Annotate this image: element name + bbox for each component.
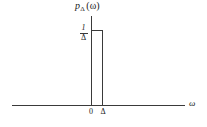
x-tick-label-zero: 0 — [86, 108, 96, 116]
function-label: pΔ(ω) — [75, 1, 100, 13]
pulse-rectangle — [91, 30, 103, 105]
x-axis-label: ω — [189, 99, 195, 108]
horizontal-axis — [12, 105, 185, 106]
function-label-argument: (ω) — [85, 0, 100, 11]
pulse-height-denominator: Δ — [78, 34, 89, 42]
pulse-height-label: 1 Δ — [78, 24, 89, 42]
rectangular-pulse-figure: pΔ(ω) 1 Δ 0 Δ ω — [0, 0, 207, 127]
x-tick-label-delta: Δ — [98, 108, 108, 116]
pulse-height-numerator: 1 — [78, 24, 89, 32]
